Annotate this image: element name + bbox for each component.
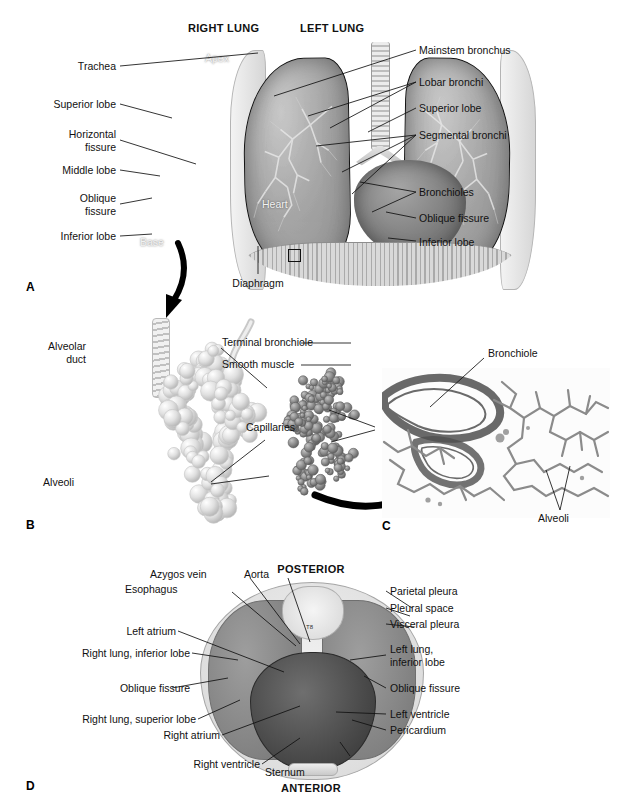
label-oblique-fissure-left: Oblique fissure — [10, 192, 116, 217]
right-bronchial-tree-icon — [243, 58, 351, 268]
panel-letter-c: C — [382, 519, 391, 533]
label-capillaries: Capillaries — [246, 421, 295, 434]
panel-c-micrograph — [382, 368, 610, 518]
vertebra-illustration — [282, 586, 344, 640]
label-apex: Apex — [205, 52, 229, 64]
thorax-illustration — [118, 20, 418, 290]
label-esophagus: Esophagus — [125, 583, 178, 596]
label-segmental-bronchi: Segmental bronchi — [419, 129, 507, 142]
label-inferior-lobe-left: Inferior lobe — [10, 230, 116, 243]
label-parietal-pleura: Parietal pleura — [390, 585, 458, 598]
label-right-ventricle: Right ventricle — [144, 758, 260, 771]
label-thoracic-vertebra: T8 — [306, 624, 313, 630]
label-bronchioles: Bronchioles — [419, 186, 474, 199]
panel-b: Terminal bronchiole Smooth muscle Alveol… — [0, 310, 360, 540]
right-lung-illustration — [242, 57, 352, 269]
label-left-lung-inferior-lobe: Left lung, inferior lobe — [390, 643, 445, 668]
label-bronchiole-panel-c: Bronchiole — [488, 347, 538, 360]
label-alveolar-duct: Alveolar duct — [0, 340, 86, 365]
panel-letter-a: A — [26, 280, 35, 294]
label-middle-lobe: Middle lobe — [10, 164, 116, 177]
label-alveoli-panel-c: Alveoli — [538, 512, 569, 525]
panel-a: RIGHT LUNG LEFT LUNG Apex Heart Base Tra… — [0, 0, 626, 305]
header-left-lung: LEFT LUNG — [300, 22, 364, 35]
orientation-anterior: ANTERIOR — [236, 782, 386, 795]
label-right-atrium: Right atrium — [110, 729, 220, 742]
label-pleural-space: Pleural space — [390, 602, 454, 615]
panel-letter-d: D — [26, 779, 35, 793]
label-visceral-pleura: Visceral pleura — [390, 618, 459, 631]
label-left-atrium: Left atrium — [78, 625, 176, 638]
label-right-lung-superior-lobe: Right lung, superior lobe — [18, 713, 196, 726]
label-superior-lobe-right: Superior lobe — [419, 102, 481, 115]
trachea-illustration — [371, 42, 390, 150]
label-base: Base — [140, 236, 164, 248]
label-smooth-muscle: Smooth muscle — [222, 358, 294, 371]
label-inferior-lobe-right: Inferior lobe — [419, 236, 474, 249]
terminal-bronchiole-illustration — [152, 318, 170, 398]
label-alveoli-panel-b: Alveoli — [0, 476, 74, 489]
label-aorta: Aorta — [244, 568, 269, 581]
panel-d: T8 POSTERIOR ANTERIOR — [0, 560, 626, 797]
figure-canvas: RIGHT LUNG LEFT LUNG Apex Heart Base Tra… — [0, 0, 626, 797]
label-lobar-bronchi: Lobar bronchi — [419, 76, 483, 89]
label-horizontal-fissure: Horizontal fissure — [10, 128, 116, 153]
label-sternum: Sternum — [265, 766, 305, 779]
base-magnify-box — [288, 249, 301, 262]
label-heart: Heart — [262, 198, 288, 210]
header-right-lung: RIGHT LUNG — [188, 22, 259, 35]
label-diaphragm: Diaphragm — [208, 277, 308, 290]
label-right-lung-inferior-lobe: Right lung, inferior lobe — [18, 647, 190, 660]
label-terminal-bronchiole: Terminal bronchiole — [222, 336, 313, 349]
label-mainstem-bronchus: Mainstem bronchus — [419, 44, 511, 57]
label-oblique-fissure-left-d: Oblique fissure — [58, 682, 190, 695]
label-azygos-vein: Azygos vein — [150, 568, 207, 581]
label-oblique-fissure-right-d: Oblique fissure — [390, 682, 460, 695]
panel-letter-b: B — [26, 518, 35, 532]
lung-histology-image — [382, 368, 610, 518]
label-trachea: Trachea — [22, 60, 116, 73]
label-oblique-fissure-right: Oblique fissure — [419, 212, 489, 225]
label-pericardium: Pericardium — [390, 724, 446, 737]
label-left-ventricle: Left ventricle — [390, 708, 450, 721]
label-superior-lobe-left: Superior lobe — [10, 98, 116, 111]
